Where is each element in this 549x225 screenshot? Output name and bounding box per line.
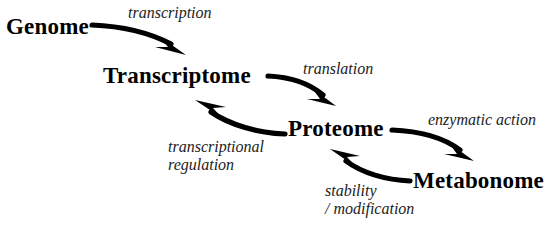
edge-stability-modification (330, 149, 410, 181)
edge-label-stability-modification-line1: stability (325, 182, 414, 200)
edge-label-translation: translation (303, 60, 373, 78)
edge-enzymatic-action (392, 130, 474, 161)
node-metabonome[interactable]: Metabonome (413, 169, 544, 192)
edge-label-transcription: transcription (128, 4, 212, 22)
edge-label-transcriptional-regulation-line2: regulation (168, 156, 264, 174)
edge-transcriptional-regulation (195, 100, 285, 134)
edge-label-enzymatic-action: enzymatic action (428, 111, 536, 129)
edge-label-transcriptional-regulation-line1: transcriptional (168, 138, 264, 156)
edge-transcription (92, 25, 186, 55)
node-proteome[interactable]: Proteome (288, 117, 384, 140)
edge-translation (268, 76, 336, 106)
edge-label-stability-modification-line2: / modification (325, 200, 414, 218)
edge-label-transcriptional-regulation: transcriptional regulation (168, 138, 264, 174)
diagram-canvas: Genome Transcriptome Proteome Metabonome… (0, 0, 549, 225)
node-transcriptome[interactable]: Transcriptome (103, 64, 251, 87)
edge-label-stability-modification: stability / modification (325, 182, 414, 218)
node-genome[interactable]: Genome (6, 15, 89, 38)
